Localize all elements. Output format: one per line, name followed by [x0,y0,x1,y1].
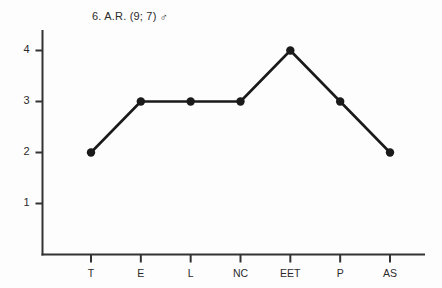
data-point [186,97,194,105]
y-tick-label: 3 [16,94,30,106]
data-point-markers [87,46,394,156]
data-point [236,97,244,105]
x-tick-label: AS [383,267,397,279]
x-tick-label: T [88,267,94,279]
y-tick-label: 4 [16,43,30,55]
y-tick-label: 2 [16,145,30,157]
data-point [87,148,95,156]
data-point [137,97,145,105]
data-point [286,46,294,54]
data-point [336,97,344,105]
line-chart: 6. A.R. (9; 7)♂ 1234 TELNCEETPAS [0,0,442,288]
y-tick-label: 1 [16,196,30,208]
x-tick-label: E [137,267,144,279]
x-tick-label: L [188,267,194,279]
x-tick-marks [91,255,390,263]
plot-area [0,0,442,288]
x-tick-label: NC [233,267,248,279]
x-tick-label: EET [280,267,300,279]
data-point [386,148,394,156]
x-tick-label: P [337,267,344,279]
y-tick-marks [36,51,43,204]
